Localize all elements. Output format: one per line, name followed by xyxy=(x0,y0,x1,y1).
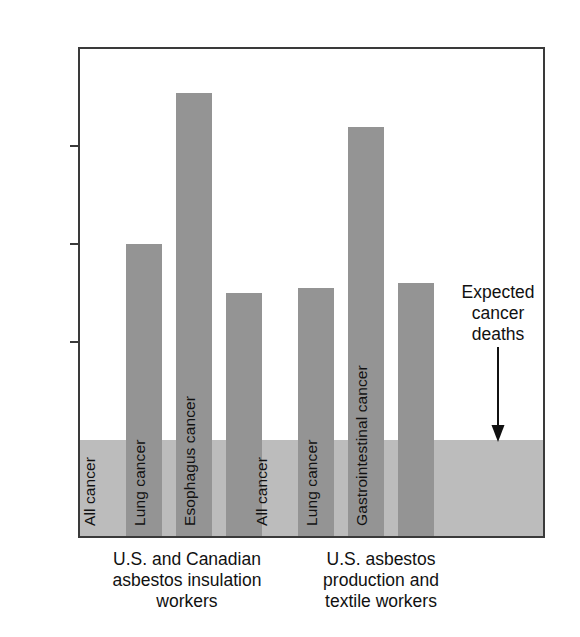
bar-group2-gastrointestinal-cancer: Gastrointestinal cancer xyxy=(398,283,434,536)
group-label-production-line-2: textile workers xyxy=(296,591,466,612)
group-label-insulation-line-0: U.S. and Canadian xyxy=(92,549,282,570)
group-label-insulation-line-2: workers xyxy=(92,591,282,612)
group-label-production-line-1: production and xyxy=(296,570,466,591)
annotation-line-0: Expected xyxy=(452,282,544,303)
plot-area: All cancer Lung cancer Esophagus cancer … xyxy=(78,47,545,538)
expected-deaths-annotation: Expected cancer deaths xyxy=(452,282,544,345)
bar-label-group2-gastrointestinal-cancer: Gastrointestinal cancer xyxy=(380,446,416,538)
bar-chart-figure: 500 400 300 200 100 0 All cancer Lung ca… xyxy=(0,0,580,637)
annotation-line-1: cancer xyxy=(452,303,544,324)
down-arrow-icon xyxy=(484,347,512,443)
group-label-insulation-line-1: asbestos insulation xyxy=(92,570,282,591)
annotation-line-2: deaths xyxy=(452,324,544,345)
group-label-production-textile-workers: U.S. asbestos production and textile wor… xyxy=(296,549,466,612)
bar-label-group1-esophagus-cancer: Esophagus cancer xyxy=(208,461,244,538)
group-label-production-line-0: U.S. asbestos xyxy=(296,549,466,570)
group-label-insulation-workers: U.S. and Canadian asbestos insulation wo… xyxy=(92,549,282,612)
